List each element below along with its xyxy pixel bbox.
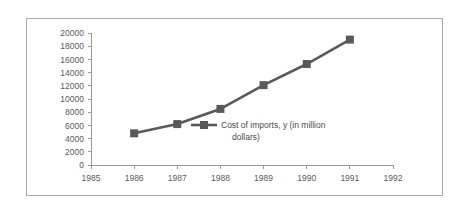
data-point-marker <box>173 120 181 128</box>
y-tick-label: 6000 <box>65 121 84 131</box>
data-point-marker <box>130 129 138 137</box>
y-tick-label: 8000 <box>65 107 84 117</box>
x-tick-label: 1988 <box>211 173 230 183</box>
legend-label-line1: Cost of imports, y (in million <box>221 120 326 130</box>
y-tick-label: 10000 <box>60 94 84 104</box>
data-point-marker <box>260 81 268 89</box>
legend-label-line2: dollars) <box>232 132 260 142</box>
x-tick-label: 1985 <box>82 173 101 183</box>
x-tick-label: 1991 <box>340 173 359 183</box>
y-tick-label: 18000 <box>60 41 84 51</box>
chart-figure: 0200040006000800010000120001400016000180… <box>0 0 475 214</box>
y-tick-label: 20000 <box>60 28 84 38</box>
x-tick-label: 1992 <box>384 173 403 183</box>
x-tick-label: 1989 <box>254 173 273 183</box>
chart-frame: 0200040006000800010000120001400016000180… <box>26 18 443 196</box>
x-tick-label: 1986 <box>125 173 144 183</box>
legend-sample-marker <box>200 121 208 129</box>
y-tick-label: 0 <box>79 160 84 170</box>
y-tick-label: 4000 <box>65 134 84 144</box>
x-tick-label: 1987 <box>168 173 187 183</box>
y-tick-label: 2000 <box>65 147 84 157</box>
data-point-marker <box>303 60 311 68</box>
data-point-marker <box>216 105 224 113</box>
y-tick-label: 14000 <box>60 68 84 78</box>
chart-legend: Cost of imports, y (in milliondollars) <box>191 120 326 142</box>
line-chart-plot: 0200040006000800010000120001400016000180… <box>27 19 442 195</box>
y-tick-label: 12000 <box>60 81 84 91</box>
x-tick-label: 1990 <box>297 173 316 183</box>
data-point-marker <box>346 36 354 44</box>
y-tick-label: 16000 <box>60 55 84 65</box>
